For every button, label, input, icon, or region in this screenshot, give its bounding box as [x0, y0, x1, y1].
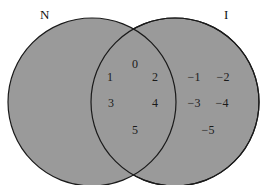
element-5: 5 [132, 123, 138, 137]
set-i-label: I [224, 7, 228, 22]
element-neg-5: −5 [202, 123, 215, 137]
venn-diagram: N I 0 1 2 3 4 5 −1 −2 −3 −4 −5 [0, 0, 266, 185]
element-neg-3: −3 [188, 96, 201, 110]
element-3: 3 [108, 96, 114, 110]
element-neg-4: −4 [216, 96, 229, 110]
element-2: 2 [152, 70, 158, 84]
element-neg-2: −2 [217, 70, 230, 84]
element-4: 4 [152, 96, 158, 110]
element-0: 0 [132, 57, 138, 71]
element-1: 1 [107, 70, 113, 84]
set-n-label: N [40, 7, 50, 22]
element-neg-1: −1 [188, 70, 201, 84]
set-n-circle [8, 18, 176, 185]
